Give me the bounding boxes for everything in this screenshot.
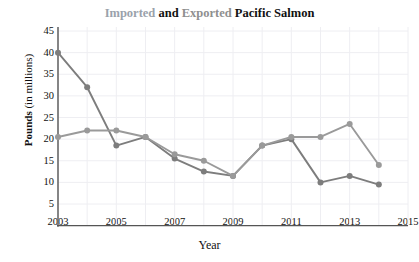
data-point xyxy=(318,134,324,140)
grid-lines xyxy=(58,27,408,226)
data-point xyxy=(113,127,119,133)
data-point xyxy=(113,143,119,149)
chart-container: Imported and Exported Pacific Salmon Pou… xyxy=(0,0,419,262)
data-point xyxy=(143,134,149,140)
data-point xyxy=(84,84,90,90)
data-point xyxy=(172,151,178,157)
data-point xyxy=(347,173,353,179)
chart-plot xyxy=(0,0,419,262)
data-point xyxy=(259,143,265,149)
data-point xyxy=(201,169,207,175)
data-point xyxy=(318,179,324,185)
data-point xyxy=(288,134,294,140)
data-point xyxy=(230,173,236,179)
data-point xyxy=(201,158,207,164)
data-point xyxy=(55,50,61,56)
series-imported xyxy=(55,121,382,179)
data-point xyxy=(84,127,90,133)
data-point xyxy=(376,182,382,188)
series-exported xyxy=(55,50,382,188)
data-point xyxy=(55,134,61,140)
data-point xyxy=(376,162,382,168)
data-point xyxy=(347,121,353,127)
